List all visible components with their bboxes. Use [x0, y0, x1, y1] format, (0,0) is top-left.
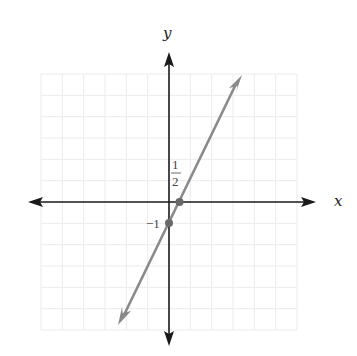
y-intercept-point: [165, 219, 173, 227]
y-axis-label: y: [162, 24, 172, 42]
x-axis: [28, 197, 316, 207]
coordinate-graph: y x 1 2 −1: [0, 0, 357, 356]
x-intercept-point: [176, 198, 184, 206]
fraction-numerator: 1: [172, 157, 179, 172]
fraction-denominator: 2: [172, 174, 179, 189]
x-axis-label: x: [334, 192, 343, 210]
y-intercept-label: −1: [146, 216, 160, 231]
line-down-arrow-icon: [118, 307, 131, 325]
line-up-arrow-icon: [229, 75, 242, 92]
y-axis: [164, 52, 174, 346]
